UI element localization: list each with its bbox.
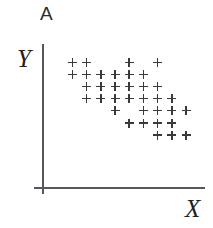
data-point-marker — [167, 106, 176, 115]
data-point-marker — [82, 94, 91, 103]
data-point-marker — [125, 70, 134, 79]
data-point-marker — [139, 94, 148, 103]
data-point-marker — [82, 70, 91, 79]
data-point-marker — [167, 119, 176, 128]
data-point-marker — [111, 106, 120, 115]
data-point-marker — [153, 106, 162, 115]
data-point-marker — [111, 82, 120, 91]
data-point-marker — [153, 131, 162, 140]
data-point-marker — [139, 106, 148, 115]
data-point-marker — [167, 131, 176, 140]
data-point-marker — [111, 94, 120, 103]
data-point-marker — [182, 131, 191, 140]
data-point-marker — [82, 82, 91, 91]
data-point-marker — [96, 82, 105, 91]
data-point-marker — [153, 58, 162, 67]
data-point-marker — [82, 58, 91, 67]
scatter-plot-figure: A Y X — [0, 0, 213, 228]
data-point-marker — [167, 94, 176, 103]
plot-area — [0, 0, 213, 228]
data-point-marker — [111, 70, 120, 79]
data-point-marker — [182, 106, 191, 115]
data-point-marker — [125, 58, 134, 67]
data-point-marker — [125, 94, 134, 103]
data-point-marker — [125, 119, 134, 128]
data-point-marker — [153, 119, 162, 128]
data-point-marker — [139, 119, 148, 128]
data-point-marker — [96, 94, 105, 103]
data-point-marker — [68, 70, 77, 79]
data-point-marker — [153, 94, 162, 103]
data-point-marker — [139, 70, 148, 79]
data-point-marker — [125, 82, 134, 91]
data-point-marker — [153, 82, 162, 91]
data-point-marker — [139, 82, 148, 91]
data-point-marker — [68, 58, 77, 67]
data-point-marker — [96, 70, 105, 79]
